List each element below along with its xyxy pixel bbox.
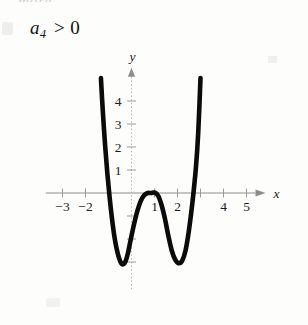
coefficient-subscript: 4 bbox=[40, 27, 46, 41]
tick-labels-group: −3−212451234xy bbox=[55, 49, 279, 214]
y-tick-label: 2 bbox=[115, 140, 122, 155]
y-tick-label: 4 bbox=[115, 94, 122, 109]
ticks-group bbox=[63, 101, 247, 262]
scan-bleed-text: more. bbox=[18, 0, 57, 2]
y-axis-arrow-icon bbox=[128, 68, 135, 77]
coefficient-symbol: a bbox=[30, 17, 40, 38]
relation-operator: > bbox=[54, 17, 65, 38]
x-axis-arrow-icon bbox=[256, 189, 266, 196]
x-tick-label: −3 bbox=[55, 199, 70, 214]
x-tick-label: 2 bbox=[174, 199, 181, 214]
graph-canvas: −3−212451234xy bbox=[0, 48, 308, 325]
figure-page: more. a4>0 −3−212451234xy bbox=[0, 0, 308, 325]
coefficient-condition-label: a4>0 bbox=[30, 17, 80, 42]
x-axis-label: x bbox=[273, 186, 280, 201]
scan-smudge bbox=[2, 22, 13, 35]
x-tick-label: 1 bbox=[151, 199, 158, 214]
x-tick-label: −2 bbox=[78, 199, 92, 214]
x-tick-label: 5 bbox=[243, 199, 250, 214]
x-tick-label: 4 bbox=[220, 199, 227, 214]
y-tick-label: 3 bbox=[115, 117, 122, 132]
relation-value: 0 bbox=[70, 17, 80, 38]
y-axis-label: y bbox=[128, 49, 136, 64]
y-tick-label: 1 bbox=[115, 163, 122, 178]
axes-group bbox=[46, 68, 266, 290]
quartic-graph: −3−212451234xy bbox=[0, 48, 308, 325]
